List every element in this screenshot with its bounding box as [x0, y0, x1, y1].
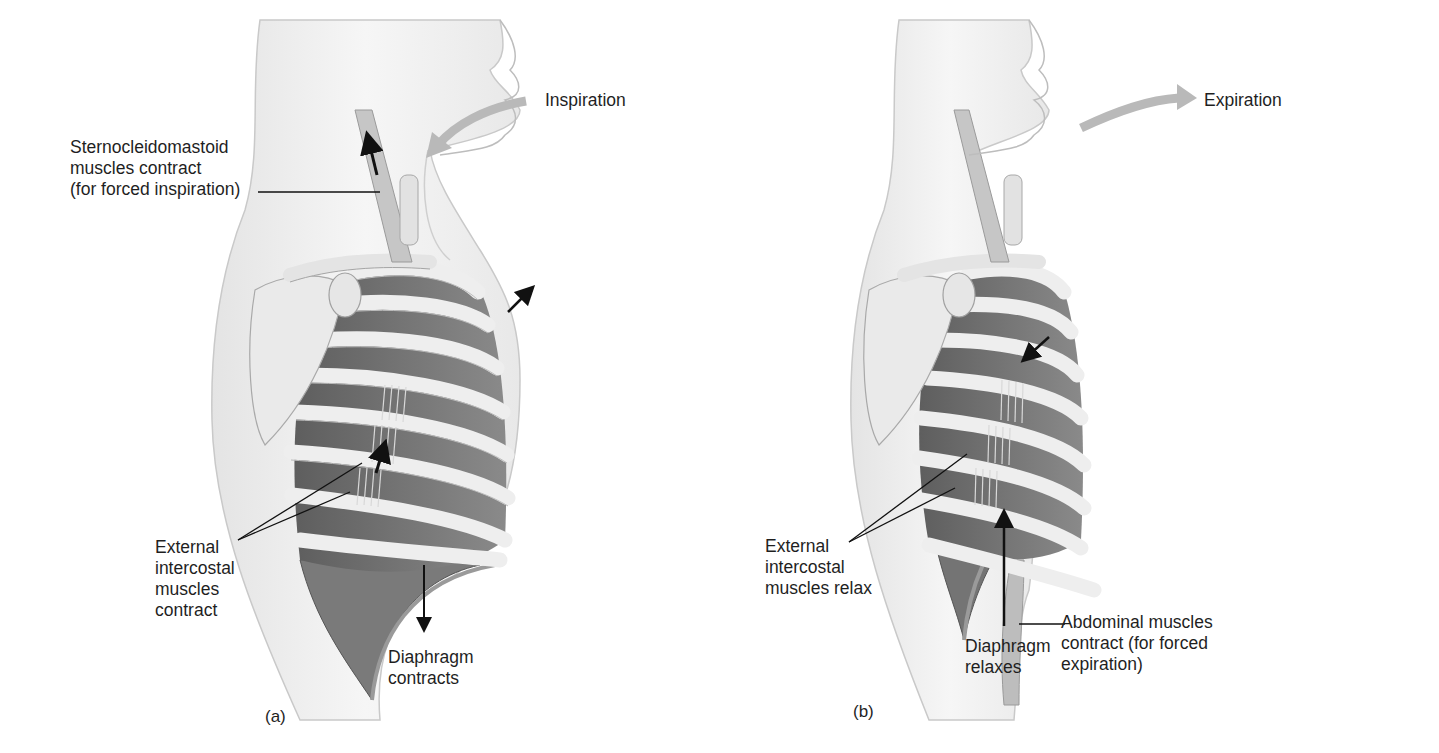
external-intercostal-relax-label: External intercostal muscles relax	[765, 536, 872, 599]
humeral-head	[329, 273, 361, 317]
panel-expiration: Expiration External intercostal muscles …	[719, 0, 1439, 753]
chest-wall-out-arrow-icon	[508, 292, 528, 312]
inspiration-airflow-label: Inspiration	[545, 90, 626, 111]
inspiration-illustration	[0, 0, 720, 753]
air-out-arrow-icon	[1081, 98, 1179, 128]
panel-inspiration: Inspiration Sternocleidomastoid muscles …	[0, 0, 720, 753]
sternocleidomastoid-label: Sternocleidomastoid muscles contract (fo…	[70, 137, 240, 200]
panel-letter-a: (a)	[265, 707, 286, 727]
expiration-airflow-label: Expiration	[1204, 90, 1282, 111]
trachea	[400, 175, 418, 245]
trachea	[1004, 175, 1022, 245]
abdominal-muscles-label: Abdominal muscles contract (for forced e…	[1061, 612, 1213, 675]
external-intercostal-contract-label: External intercostal muscles contract	[155, 537, 235, 621]
diaphragm-contracts-label: Diaphragm contracts	[388, 647, 474, 689]
panel-letter-b: (b)	[853, 702, 874, 722]
humeral-head	[943, 273, 975, 317]
diaphragm-relaxes-label: Diaphragm relaxes	[965, 636, 1051, 678]
